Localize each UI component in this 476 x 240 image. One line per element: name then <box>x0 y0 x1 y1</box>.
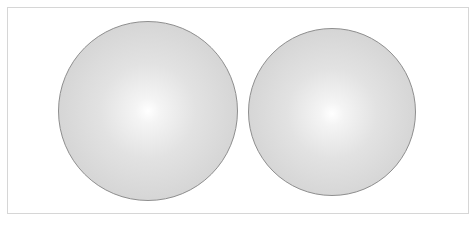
left-sphere <box>58 21 238 201</box>
right-sphere <box>248 28 416 196</box>
